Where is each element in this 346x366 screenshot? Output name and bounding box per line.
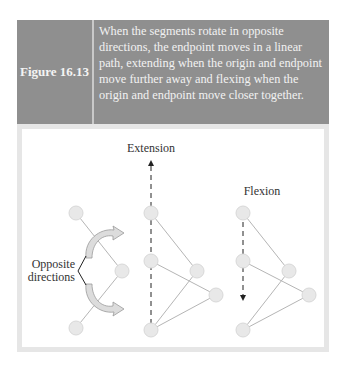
- node-icon: [236, 323, 250, 337]
- linkage-diagram: Opposite directions Extension Flexion: [0, 0, 346, 366]
- flexion-diagram: Flexion: [236, 184, 316, 337]
- extension-label: Extension: [127, 141, 175, 155]
- node-icon: [209, 288, 223, 302]
- node-icon: [282, 264, 296, 278]
- directions-label: directions: [28, 270, 76, 284]
- node-icon: [144, 206, 158, 220]
- node-icon: [236, 254, 250, 268]
- curved-arrow-up-icon: [86, 226, 124, 258]
- node-icon: [144, 254, 158, 268]
- flexion-label: Flexion: [244, 184, 281, 198]
- bracket-icon: [78, 256, 86, 285]
- node-icon: [236, 206, 250, 220]
- node-icon: [115, 264, 129, 278]
- curved-arrow-down-icon: [86, 284, 124, 316]
- node-icon: [302, 288, 316, 302]
- node-icon: [190, 264, 204, 278]
- opposite-rotation-diagram: Opposite directions: [28, 206, 129, 335]
- node-icon: [69, 321, 83, 335]
- opposite-label: Opposite: [32, 257, 75, 271]
- extension-diagram: Extension: [127, 141, 223, 337]
- node-icon: [69, 206, 83, 220]
- node-icon: [144, 323, 158, 337]
